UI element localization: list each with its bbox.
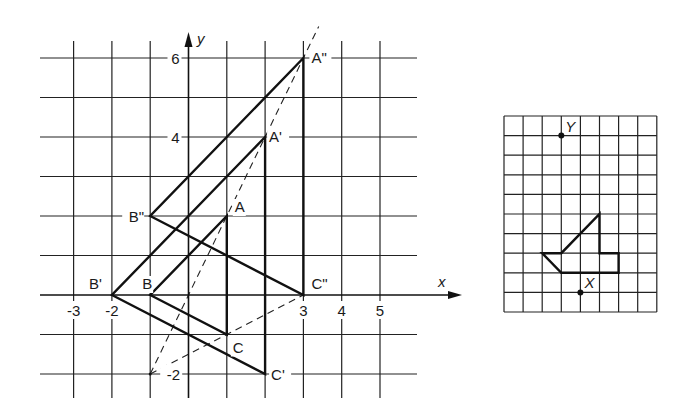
vertex-label: A' bbox=[269, 128, 282, 145]
x-axis-arrow-icon bbox=[448, 291, 462, 299]
point-label-x: X bbox=[583, 274, 595, 291]
axes: x y bbox=[40, 30, 462, 398]
vertex-label: B bbox=[142, 275, 152, 292]
vertex-label: C" bbox=[311, 275, 327, 292]
point-label-y: Y bbox=[565, 118, 576, 135]
y-tick-label: 4 bbox=[171, 129, 179, 146]
vertex-label: C bbox=[233, 339, 244, 356]
x-tick-label: 4 bbox=[338, 302, 346, 319]
vertex-label: C' bbox=[271, 366, 285, 383]
point-x bbox=[577, 289, 583, 295]
y-axis-label: y bbox=[196, 30, 206, 47]
small-grid-points: YX bbox=[558, 118, 595, 296]
figure: x y -3-234564-2 ABCA'B'C'A"B"C" YX bbox=[0, 0, 687, 411]
x-axis-label: x bbox=[437, 273, 446, 290]
vertex-label: A bbox=[235, 198, 245, 215]
x-tick-label: -3 bbox=[67, 302, 80, 319]
y-tick-label: 6 bbox=[171, 50, 179, 67]
x-tick-label: 3 bbox=[299, 302, 307, 319]
coordinate-grid-panel: x y -3-234564-2 ABCA'B'C'A"B"C" bbox=[40, 26, 462, 398]
small-grid-panel: YX bbox=[504, 116, 657, 312]
x-tick-label: -2 bbox=[105, 302, 118, 319]
vertex-label: B' bbox=[89, 275, 102, 292]
y-tick-label: -2 bbox=[167, 366, 180, 383]
small-grid-lines bbox=[504, 116, 657, 312]
y-axis-arrow-icon bbox=[185, 32, 193, 47]
x-tick-label: 5 bbox=[376, 302, 384, 319]
main-grid-lines bbox=[40, 41, 417, 398]
vertex-label: A" bbox=[311, 49, 326, 66]
dilation-center-point bbox=[149, 373, 152, 376]
point-y bbox=[558, 133, 564, 139]
figure-canvas: x y -3-234564-2 ABCA'B'C'A"B"C" YX bbox=[0, 0, 687, 411]
vertex-label: B" bbox=[129, 208, 144, 225]
